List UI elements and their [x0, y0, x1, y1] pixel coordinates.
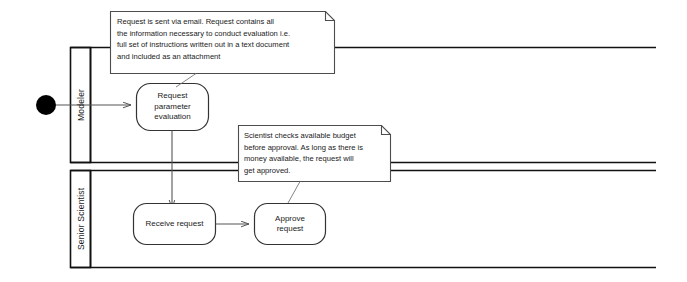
activity-label-request-parameter-evaluation: Request parameter evaluation: [136, 83, 209, 131]
start-node[interactable]: [36, 95, 56, 115]
lane-label-modeler: Modeler: [70, 47, 91, 163]
note-leader-line: [288, 182, 300, 204]
note-text-request-email: Request is sent via email. Request conta…: [117, 16, 332, 62]
lane-label-senior-scientist: Senior Scientist: [70, 170, 91, 268]
activity-label-receive-request: Receive request: [133, 203, 216, 245]
note-text-budget-check: Scientist checks available budget before…: [244, 130, 389, 176]
activity-diagram-canvas: Modeler Senior Scientist Request paramet…: [0, 0, 687, 282]
activity-label-approve-request: Approve request: [254, 203, 326, 245]
